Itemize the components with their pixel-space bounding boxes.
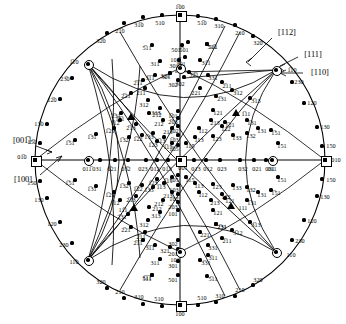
direction-label: [112] [278,29,296,37]
stereographic-projection-figure: 31̅051051̅031021̅021032̅032023̅023012̅01… [0,0,346,324]
direction-label: [001̅] [13,137,31,145]
direction-label: [111] [304,51,322,59]
direction-label: [100] [14,176,32,184]
direction-label: [110] [311,69,329,77]
direction-labels-layer: [112][111][110][001̅][100] [0,0,346,324]
